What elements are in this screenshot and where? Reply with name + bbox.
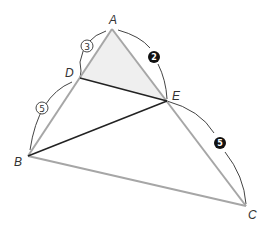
- ratio-mark-ec: 5: [214, 137, 226, 149]
- triangle-diagram: A D E B C 3 5 2 5: [0, 0, 270, 231]
- arc-db: [30, 82, 72, 150]
- label-e: E: [172, 89, 181, 103]
- label-b: B: [14, 155, 22, 169]
- svg-text:2: 2: [151, 53, 157, 62]
- label-a: A: [108, 13, 117, 27]
- ratio-mark-db: 5: [36, 102, 48, 114]
- label-c: C: [248, 208, 257, 222]
- label-d: D: [65, 66, 74, 80]
- svg-text:5: 5: [217, 139, 223, 148]
- arc-ec-start: [167, 101, 214, 133]
- arc-ec: [225, 152, 246, 204]
- ratio-mark-ad: 3: [81, 40, 93, 52]
- segment-ab: [28, 29, 112, 156]
- svg-text:5: 5: [39, 104, 45, 114]
- segment-be: [28, 101, 167, 156]
- svg-text:3: 3: [84, 42, 90, 52]
- ratio-mark-ae: 2: [148, 51, 160, 63]
